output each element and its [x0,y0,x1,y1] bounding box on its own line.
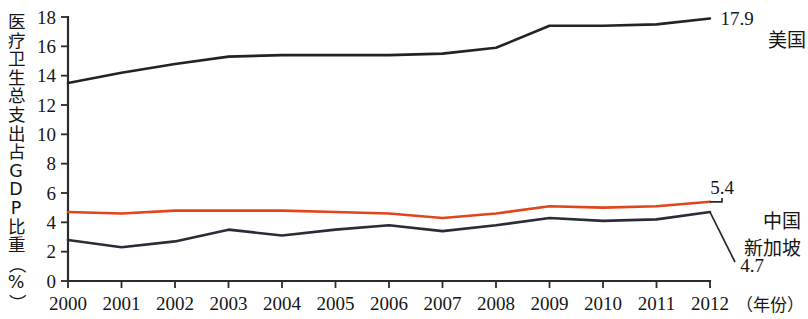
y-axis-title-char: 疗 [8,31,25,51]
x-tick-label: 2010 [584,293,622,314]
y-axis-title-char: G [9,161,23,181]
y-axis-title-char: 医 [8,12,25,32]
series-name-us: 美国 [768,29,806,51]
x-tick-label: 2004 [263,293,302,314]
y-axis-ticks: 024681012141618 [37,7,68,292]
x-tick-label: 2002 [156,293,194,314]
y-tick-label: 0 [47,271,57,292]
y-tick-label: 8 [47,153,57,174]
y-tick-label: 16 [37,36,56,57]
y-axis-title-char: 重 [8,235,25,255]
x-axis-caption: （年份） [736,295,804,315]
series-line-美国 [68,18,710,83]
series-name-labels: 美国中国新加坡 [744,29,806,259]
y-axis-title-char: D [9,179,22,199]
y-axis-title-char: 生 [8,68,25,88]
y-tick-label: 12 [37,95,56,116]
x-tick-label: 2008 [477,293,515,314]
leader-singapore [710,212,735,262]
y-axis-title-char: （ [7,256,27,273]
y-axis-title-char: % [8,272,25,292]
x-tick-label: 2005 [317,293,355,314]
y-axis-title-char: ） [7,294,27,311]
x-axis-ticks: 2000200120022003200420052006200720082009… [49,281,729,314]
series-line-中国 [68,202,710,218]
callout-annotations: 17.95.44.7 [710,8,764,276]
y-tick-label: 2 [47,241,57,262]
x-tick-label: 2011 [638,293,675,314]
value-label-us: 17.9 [720,8,753,29]
x-tick-label: 2007 [424,293,462,314]
y-axis-title-char: 比 [8,217,25,237]
chart-svg: 医疗卫生总支出占GDP比重（%） 024681012141618 2000200… [0,0,808,319]
y-axis-title: 医疗卫生总支出占GDP比重（%） [7,12,27,311]
y-axis-title-char: P [11,198,22,218]
value-label-china: 5.4 [710,177,734,198]
x-tick-label: 2001 [103,293,141,314]
x-tick-label: 2012 [691,293,729,314]
x-tick-label: 2000 [49,293,87,314]
y-tick-label: 14 [37,65,57,86]
series-name-singapore: 新加坡 [744,237,801,259]
y-axis-title-char: 支 [8,105,25,125]
y-axis-title-char: 占 [8,142,25,162]
series-name-china: 中国 [763,210,801,232]
x-tick-label: 2006 [370,293,408,314]
y-axis-title-char: 出 [8,124,25,144]
y-tick-label: 10 [37,124,56,145]
x-tick-label: 2003 [210,293,248,314]
y-tick-label: 18 [37,7,56,28]
y-axis-title-char: 卫 [8,49,25,69]
y-tick-label: 6 [47,183,57,204]
series-line-新加坡 [68,212,710,247]
healthcare-expenditure-chart: 医疗卫生总支出占GDP比重（%） 024681012141618 2000200… [0,0,808,319]
x-tick-label: 2009 [531,293,569,314]
y-tick-label: 4 [47,212,57,233]
leader-china [710,198,722,202]
series-lines [68,18,710,247]
y-axis-title-char: 总 [8,86,25,106]
